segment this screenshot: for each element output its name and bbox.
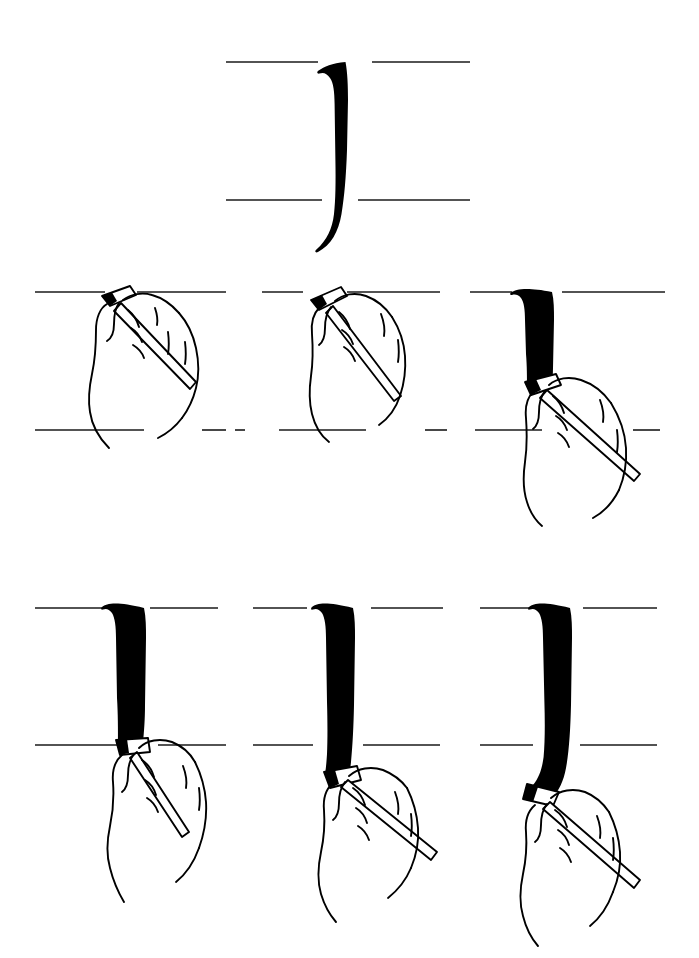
knuckle-crease-2 [613,838,614,860]
hand-wrist-outline [593,490,619,518]
finger-fold-3 [358,826,369,840]
hand-back-outline [179,313,198,418]
step-panel-5 [235,580,475,958]
hand-back-outline [611,403,626,490]
knuckle-crease-2 [411,814,412,836]
step-6-stroke-ink [528,604,572,798]
step-panel-2 [235,270,475,570]
step-3-hand-and-pen [524,374,640,526]
hand-back-outline [195,762,206,848]
step-4-hand-and-pen [107,738,206,902]
finger-fold-3 [560,848,571,862]
step-5-hand-and-pen [318,766,437,922]
hand-outline [89,304,109,448]
figure-page [0,0,699,958]
step-3-stroke-ink [510,289,554,386]
pen-shaft [341,780,437,860]
step-5-stroke-ink [311,604,355,779]
pen-shaft [114,303,196,389]
step-1-hand-and-pen [89,286,198,448]
hand-outline [107,755,124,902]
step-panel-6 [465,580,699,958]
knuckle-crease-1 [395,792,398,814]
hand-outline [310,308,329,442]
index-finger-outline [551,790,609,812]
hand-wrist-outline [379,396,400,425]
hero-finished-stroke-panel [0,0,699,270]
knuckle-crease-3 [155,308,157,325]
hand-outline [318,783,336,922]
knuckle-crease-1 [600,400,603,422]
pen-shaft [130,752,189,837]
hand-wrist-outline [176,848,199,882]
finger-fold-3 [133,345,144,358]
knuckle-crease-2 [398,340,399,362]
step-6-hand-and-pen [520,784,640,946]
step-4-stroke-ink [101,604,146,743]
knuckle-crease-1 [381,314,384,336]
step-panel-1 [0,270,240,570]
hand-wrist-outline [388,868,411,898]
step-2-hand-and-pen [310,287,406,442]
knuckle-crease-2 [185,342,186,364]
knuckle-crease-1 [597,816,600,838]
step-panel-3 [465,270,699,570]
knuckle-crease-2 [617,430,618,452]
pen-shaft [326,306,401,401]
knuckle-crease-1 [168,332,169,354]
knuckle-crease-1 [183,766,186,788]
hand-wrist-outline [158,418,182,438]
step-panel-4 [0,580,240,958]
hand-wrist-outline [590,892,613,926]
knuckle-crease-2 [199,788,200,810]
finger-fold-3 [147,798,158,812]
hand-outline [520,805,538,946]
finger-fold-3 [558,433,569,447]
hero-stroke-ink [315,62,348,252]
pen-shaft [543,802,640,888]
pen-nib-edge [116,739,129,755]
finger-fold-2 [356,808,367,823]
finger-fold-2 [558,830,569,845]
